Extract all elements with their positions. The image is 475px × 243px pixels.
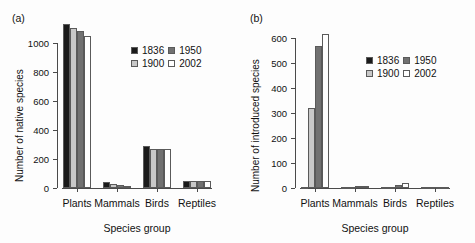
legend-label-1900: 1900 bbox=[142, 58, 164, 69]
panel_b-y-tick bbox=[291, 88, 295, 89]
panel_a-y-tick-label: 200 bbox=[15, 153, 49, 164]
panel_a-x-tick-label-birds: Birds bbox=[145, 197, 169, 209]
panel_b-x-tick-label-plants: Plants bbox=[300, 197, 329, 209]
panel_b-y-tick-label: 100 bbox=[253, 158, 287, 169]
bar-mammals-1950 bbox=[355, 186, 362, 189]
legend-label-2002: 2002 bbox=[179, 58, 201, 69]
panel_a-x-tick bbox=[77, 188, 78, 192]
bar-birds-1900 bbox=[150, 149, 157, 188]
panel_a-y-tick bbox=[53, 43, 57, 44]
bar-plants-1836 bbox=[301, 187, 308, 189]
panel_b-y-tick bbox=[291, 163, 295, 164]
panel_b-y-tick-label: 300 bbox=[253, 108, 287, 119]
panel_a-y-tick bbox=[53, 130, 57, 131]
panel_a-x-tick-label-reptiles: Reptiles bbox=[178, 197, 216, 209]
panel_a-y-tick-label: 400 bbox=[15, 124, 49, 135]
bar-birds-2002 bbox=[402, 183, 409, 188]
bar-birds-1950 bbox=[395, 185, 402, 188]
legend-label-1836: 1836 bbox=[142, 45, 164, 56]
bar-plants-1900 bbox=[308, 108, 315, 188]
panel_b-x-tick-label-mammals: Mammals bbox=[332, 197, 378, 209]
legend-label-1950: 1950 bbox=[179, 45, 201, 56]
panel_b-y-tick-label: 200 bbox=[253, 133, 287, 144]
legend-swatch-1836 bbox=[366, 57, 373, 64]
panel-b: (b) Number of introduced species 0100200… bbox=[238, 0, 475, 243]
bar-reptiles-1836 bbox=[183, 181, 190, 188]
legend-swatch-1950 bbox=[168, 47, 175, 54]
legend-swatch-2002 bbox=[403, 70, 410, 77]
bar-birds-1836 bbox=[381, 187, 388, 189]
panel_b-y-axis-line bbox=[295, 38, 296, 188]
legend-swatch-1836 bbox=[131, 47, 138, 54]
legend-label-1836: 1836 bbox=[377, 55, 399, 66]
panel_b-y-tick-label: 600 bbox=[253, 33, 287, 44]
panel-b-x-axis-label: Species group bbox=[295, 222, 455, 234]
panel_b-y-tick-label: 0 bbox=[253, 183, 287, 194]
panel_b-x-tick bbox=[315, 188, 316, 192]
panel_a-x-tick bbox=[157, 188, 158, 192]
panel_a-x-tick-label-mammals: Mammals bbox=[94, 197, 140, 209]
panel_a-y-tick bbox=[53, 188, 57, 189]
bar-mammals-1836 bbox=[341, 187, 348, 189]
bar-reptiles-1950 bbox=[435, 187, 442, 189]
bar-birds-2002 bbox=[164, 149, 171, 188]
bar-plants-1836 bbox=[63, 24, 70, 188]
panel_b-y-tick bbox=[291, 113, 295, 114]
panel_b-x-tick-label-reptiles: Reptiles bbox=[416, 197, 454, 209]
bar-mammals-1950 bbox=[117, 185, 124, 188]
panel_b-y-tick bbox=[291, 63, 295, 64]
panel_b-y-tick-label: 400 bbox=[253, 83, 287, 94]
panel_a-x-tick-label-plants: Plants bbox=[62, 197, 91, 209]
panel_a-x-tick bbox=[117, 188, 118, 192]
bar-birds-1900 bbox=[388, 187, 395, 189]
panel_a-y-tick bbox=[53, 101, 57, 102]
panel_b-y-tick bbox=[291, 138, 295, 139]
legend-swatch-1900 bbox=[131, 60, 138, 67]
bar-reptiles-1900 bbox=[428, 187, 435, 189]
bar-mammals-1900 bbox=[348, 187, 355, 189]
panel-a-x-axis-label: Species group bbox=[57, 222, 217, 234]
panel_b-y-tick-label: 500 bbox=[253, 58, 287, 69]
bar-reptiles-1836 bbox=[421, 187, 428, 189]
bar-reptiles-1950 bbox=[197, 181, 204, 188]
bar-reptiles-1900 bbox=[190, 181, 197, 188]
bar-plants-1900 bbox=[70, 28, 77, 188]
bar-mammals-1900 bbox=[110, 184, 117, 188]
panel_a-y-axis-line bbox=[57, 43, 58, 188]
legend-label-1900: 1900 bbox=[377, 68, 399, 79]
legend-swatch-1900 bbox=[366, 70, 373, 77]
panel-b-legend: 1836195019002002 bbox=[366, 55, 437, 79]
panel_a-x-axis-line bbox=[62, 188, 212, 189]
bar-reptiles-2002 bbox=[442, 187, 449, 189]
panel_b-x-tick-label-birds: Birds bbox=[383, 197, 407, 209]
panel-a-legend: 1836195019002002 bbox=[131, 45, 202, 69]
panel-a-tag: (a) bbox=[12, 12, 25, 24]
bar-birds-1836 bbox=[143, 146, 150, 188]
panel_b-y-tick bbox=[291, 188, 295, 189]
panel_a-y-tick-label: 800 bbox=[15, 66, 49, 77]
panel_b-y-tick bbox=[291, 38, 295, 39]
figure-root: (a) Number of native species 02004006008… bbox=[0, 0, 475, 243]
panel_a-x-tick bbox=[197, 188, 198, 192]
panel_a-y-tick bbox=[53, 72, 57, 73]
panel_b-x-tick bbox=[395, 188, 396, 192]
legend-swatch-1950 bbox=[403, 57, 410, 64]
bar-mammals-1836 bbox=[103, 182, 110, 188]
legend-label-1950: 1950 bbox=[414, 55, 436, 66]
bar-reptiles-2002 bbox=[204, 181, 211, 188]
panel_a-y-tick-label: 0 bbox=[15, 183, 49, 194]
bar-birds-1950 bbox=[157, 149, 164, 188]
legend-label-2002: 2002 bbox=[414, 68, 436, 79]
bar-mammals-2002 bbox=[362, 186, 369, 188]
panel-a: (a) Number of native species 02004006008… bbox=[0, 0, 237, 243]
bar-plants-1950 bbox=[315, 46, 322, 189]
panel_b-x-tick bbox=[355, 188, 356, 192]
panel_a-y-tick-label: 1000 bbox=[15, 37, 49, 48]
bar-plants-2002 bbox=[322, 34, 329, 188]
panel-b-plot-area: 0100200300400500600PlantsMammalsBirdsRep… bbox=[295, 28, 455, 188]
bar-plants-1950 bbox=[77, 31, 84, 188]
panel-b-y-axis-label: Number of introduced species bbox=[250, 59, 261, 192]
panel_a-y-tick-label: 600 bbox=[15, 95, 49, 106]
legend-swatch-2002 bbox=[168, 60, 175, 67]
bar-mammals-2002 bbox=[124, 186, 131, 188]
